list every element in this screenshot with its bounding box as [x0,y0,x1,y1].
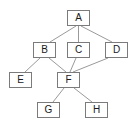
graph-diagram: ABCDEFGH [0,0,134,124]
graph-node-label: C [75,45,82,55]
graph-edge-f-h [74,88,92,102]
graph-node-label: D [113,45,120,55]
graph-node-e[interactable]: E [9,72,32,88]
graph-node-label: A [75,13,82,23]
graph-node-label: H [93,105,100,115]
graph-node-b[interactable]: B [33,42,56,58]
graph-node-label: E [17,75,24,85]
graph-node-label: B [41,45,48,55]
graph-edge-a-d [81,26,112,42]
graph-edge-b-f [49,58,66,72]
graph-edge-d-f [73,58,108,72]
graph-node-label: F [65,75,71,85]
graph-node-d[interactable]: D [105,42,128,58]
edges-group [25,26,112,102]
graph-node-a[interactable]: A [67,10,90,26]
graph-edge-b-e [25,58,40,72]
graph-node-h[interactable]: H [85,102,108,118]
graph-node-f[interactable]: F [57,72,80,88]
graph-edge-a-b [50,26,76,42]
graph-edge-f-g [53,88,64,102]
graph-node-g[interactable]: G [37,102,60,118]
graph-node-c[interactable]: C [67,42,90,58]
graph-edge-c-f [70,58,76,72]
graph-node-label: G [45,105,53,115]
